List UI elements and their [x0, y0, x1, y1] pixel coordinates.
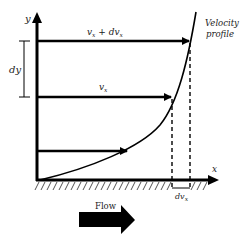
top-arrow-label: vx + dvx [87, 27, 124, 38]
dy-label: dy [9, 64, 21, 75]
x-axis-label: x [212, 164, 217, 174]
flow-label: Flow [95, 201, 117, 211]
y-axis-arrowhead-icon [32, 12, 42, 23]
y-axis-label: y [24, 13, 31, 24]
velocity-profile-label-line2: profile [206, 29, 234, 39]
middle-arrow-label: vx [99, 82, 108, 93]
velocity-profile-label-line1: Velocity [205, 18, 239, 28]
dvx-label: dvx [175, 192, 189, 202]
velocity-profile-diagram: y x dvx dy vx + dvx vx Velocity profile … [0, 0, 242, 238]
x-axis-arrowhead-icon [208, 175, 219, 185]
wall-hatching [35, 182, 207, 190]
